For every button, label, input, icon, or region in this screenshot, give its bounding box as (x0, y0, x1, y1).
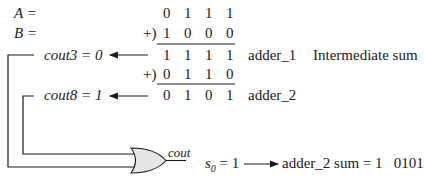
adder1-label: adder_1 (248, 48, 296, 63)
adder2-label: adder_2 (248, 88, 296, 103)
cout3-label: cout3 = 0 (44, 48, 102, 63)
result-label: adder_2 sum = 1 0101 (282, 156, 424, 171)
cout3-wire (8, 55, 136, 167)
label-b: B = (14, 26, 37, 41)
row-sum2: 0101 (163, 88, 247, 103)
intermediate-sum-label: Intermediate sum (313, 48, 418, 63)
s0-label: s0 = 1 (205, 156, 239, 174)
label-a: A = (14, 6, 37, 21)
plus-sign-1: +) (143, 26, 156, 41)
row-a: 0111 (163, 6, 247, 21)
gate-cout-label: cout (168, 146, 190, 159)
row-b: 1000 (163, 26, 247, 41)
plus-sign-2: +) (143, 67, 156, 82)
row-addend2: 0110 (163, 67, 247, 82)
cout8-wire (23, 96, 136, 154)
or-gate-icon (131, 148, 166, 173)
row-sum1: 1111 (163, 48, 247, 63)
cout8-label: cout8 = 1 (44, 88, 102, 103)
